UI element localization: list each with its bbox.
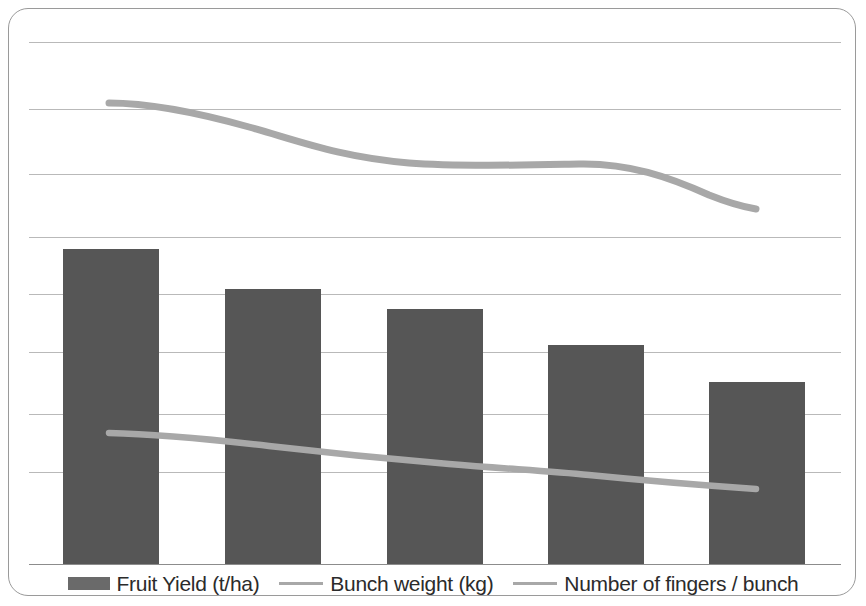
bar-swatch-icon (68, 577, 110, 590)
line-swatch-icon (513, 582, 557, 585)
line-bunch-weight (109, 433, 756, 489)
legend-item-label: Bunch weight (kg) (330, 573, 493, 594)
legend-item-label: Fruit Yield (t/ha) (117, 573, 260, 594)
legend-item-bunch-weight[interactable]: Bunch weight (kg) (279, 573, 493, 594)
line-swatch-icon (279, 582, 323, 585)
legend-item-number-of-fingers[interactable]: Number of fingers / bunch (513, 573, 798, 594)
chart-legend: Fruit Yield (t/ha) Bunch weight (kg) Num… (9, 569, 857, 597)
line-series-layer (9, 9, 857, 569)
legend-item-fruit-yield[interactable]: Fruit Yield (t/ha) (68, 573, 260, 594)
chart-card: Fruit Yield (t/ha) Bunch weight (kg) Num… (8, 8, 856, 596)
legend-item-label: Number of fingers / bunch (564, 573, 798, 594)
plot-area (9, 9, 857, 569)
line-number-of-fingers (109, 103, 756, 209)
